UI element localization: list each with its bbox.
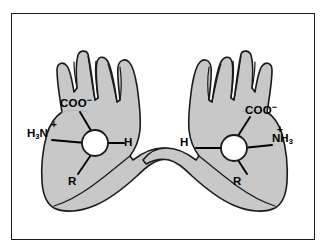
right-carboxylate-charge: −: [272, 102, 277, 112]
right-amino-charge: +: [277, 125, 283, 135]
left-amino-charge: +: [51, 120, 57, 130]
figure-root: COO− H3N + H R COO− NH3 + H R: [0, 0, 329, 252]
left-chiral-center: [82, 130, 108, 156]
left-amino-nitrogen: N: [40, 127, 48, 139]
right-hand-group: [143, 51, 287, 211]
left-sidechain-label: R: [68, 176, 76, 188]
right-amino-count: 3: [289, 137, 293, 146]
left-hydrogen-label: H: [124, 137, 132, 149]
left-carboxylate-charge: −: [87, 95, 92, 105]
right-sidechain-label: R: [233, 176, 241, 188]
right-carboxylate-label: COO−: [245, 103, 277, 116]
left-carboxylate-label: COO−: [60, 96, 92, 109]
left-hand-group: [42, 51, 186, 211]
left-carboxylate-text: COO: [60, 97, 87, 109]
right-carboxylate-text: COO: [245, 104, 272, 116]
right-hydrogen-label: H: [180, 137, 188, 149]
right-chiral-center: [221, 135, 247, 161]
right-hand-silhouette: [143, 51, 287, 211]
left-hand-silhouette: [42, 51, 186, 211]
left-amino-label: H3N: [27, 128, 48, 141]
